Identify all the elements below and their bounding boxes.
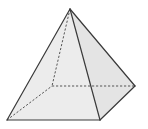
square-pyramid-diagram <box>0 0 148 129</box>
